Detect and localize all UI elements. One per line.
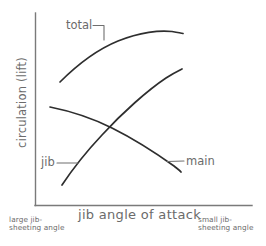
chart-figure: circulation (lift) jib angle of attack l…	[0, 0, 266, 246]
x-axis-right-note: small jib-sheeting angle	[198, 216, 254, 232]
curve-total	[60, 31, 183, 82]
x-axis-left-note-line2: sheeting angle	[9, 223, 65, 232]
x-axis-left-note: large jib-sheeting angle	[9, 216, 65, 232]
series-label-main: main	[186, 155, 215, 168]
leader-line-total	[93, 26, 104, 41]
curve-jib	[62, 69, 182, 185]
y-axis-label: circulation (lift)	[16, 42, 29, 162]
x-axis-right-note-line2: sheeting angle	[198, 223, 254, 232]
series-label-total: total	[66, 19, 92, 32]
leader-line-main	[167, 161, 184, 162]
series-label-jib: jib	[41, 156, 55, 169]
x-axis-label: jib angle of attack	[78, 208, 201, 223]
curve-main	[50, 107, 181, 172]
